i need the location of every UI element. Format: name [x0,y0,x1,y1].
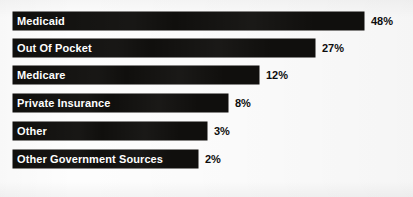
bar-category-label: Private Insurance [13,98,110,109]
chart-bar-row: Medicaid 48% [13,12,393,30]
bar-value-label: 2% [198,154,221,165]
bar-category-label: Medicaid [13,16,65,27]
chart-bar: Out Of Pocket [13,39,315,57]
bar-category-label: Other [13,126,47,137]
bar-chart: Medicaid 48% Out Of Pocket 27% Medicare … [0,0,413,197]
chart-bar-row: Medicare 12% [13,66,288,84]
bar-value-label: 48% [364,16,393,27]
bar-value-label: 12% [259,70,288,81]
bar-value-label: 8% [228,98,251,109]
bar-category-label: Other Government Sources [13,154,163,165]
chart-bar: Medicaid [13,12,364,30]
chart-bar: Other [13,122,207,140]
bar-category-label: Out Of Pocket [13,43,92,54]
bar-value-label: 3% [207,126,230,137]
chart-bar-row: Other Government Sources 2% [13,150,221,168]
chart-bar: Private Insurance [13,94,228,112]
chart-bar-row: Out Of Pocket 27% [13,39,344,57]
chart-bar-row: Private Insurance 8% [13,94,251,112]
chart-bar: Other Government Sources [13,150,198,168]
chart-bar: Medicare [13,66,259,84]
bar-value-label: 27% [315,43,344,54]
bar-category-label: Medicare [13,70,66,81]
chart-bar-row: Other 3% [13,122,230,140]
